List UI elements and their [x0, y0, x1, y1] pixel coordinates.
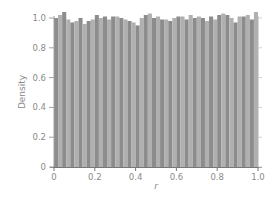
y-tick-label: 0 — [41, 162, 46, 172]
histogram-bar — [217, 15, 221, 167]
histogram-bar — [136, 25, 140, 167]
y-tick-label: 0.8 — [32, 43, 46, 53]
x-tick-label: 1.0 — [251, 172, 265, 182]
histogram-bar — [238, 17, 242, 167]
histogram-bar — [123, 19, 127, 167]
x-tick-label: 0 — [51, 172, 56, 182]
histogram-bar — [209, 17, 213, 167]
histogram-bar — [91, 19, 95, 167]
histogram-bar — [164, 19, 168, 167]
histogram-bar — [107, 19, 111, 167]
histogram-bar — [95, 15, 99, 167]
x-axis-ticks: 00.20.40.60.81.0 — [51, 167, 264, 182]
histogram-bar — [115, 17, 119, 167]
histogram-bars — [54, 12, 258, 167]
histogram-bar — [168, 21, 172, 167]
y-tick-label: 0.4 — [32, 102, 46, 112]
histogram-bar — [193, 18, 197, 167]
histogram-chart: 00.20.40.60.81.0 00.20.40.60.81.0 Densit… — [0, 0, 276, 201]
histogram-bar — [144, 15, 148, 167]
histogram-bar — [254, 12, 258, 167]
histogram-bar — [180, 17, 184, 167]
histogram-bar — [225, 15, 229, 167]
histogram-bar — [234, 22, 238, 167]
histogram-bar — [185, 19, 189, 167]
histogram-bar — [201, 18, 205, 167]
histogram-bar — [66, 19, 70, 167]
histogram-bar — [103, 17, 107, 167]
x-tick-label: 0.6 — [170, 172, 184, 182]
histogram-bar — [132, 22, 136, 167]
histogram-bar — [70, 22, 74, 167]
histogram-bar — [54, 18, 58, 167]
histogram-bar — [140, 18, 144, 167]
histogram-bar — [111, 17, 115, 167]
x-tick-label: 0.4 — [129, 172, 143, 182]
histogram-bar — [250, 19, 254, 167]
histogram-bar — [176, 17, 180, 167]
y-tick-label: 0.6 — [32, 73, 46, 83]
y-tick-label: 0.2 — [32, 132, 46, 142]
histogram-bar — [205, 21, 209, 167]
histogram-bar — [87, 21, 91, 167]
histogram-bar — [62, 12, 66, 167]
y-tick-label: 1.0 — [32, 13, 46, 23]
histogram-bar — [99, 18, 103, 167]
histogram-bar — [127, 21, 131, 167]
histogram-bar — [197, 17, 201, 167]
histogram-bar — [160, 19, 164, 167]
histogram-bar — [148, 14, 152, 167]
histogram-bar — [58, 15, 62, 167]
histogram-bar — [74, 21, 78, 167]
histogram-bar — [189, 15, 193, 167]
histogram-bar — [152, 18, 156, 167]
histogram-bar — [83, 24, 87, 167]
histogram-bar — [229, 18, 233, 167]
histogram-bar — [156, 17, 160, 167]
histogram-bar — [119, 18, 123, 167]
y-axis-label: Density — [17, 74, 27, 109]
histogram-bar — [213, 19, 217, 167]
histogram-bar — [78, 18, 82, 167]
x-tick-label: 0.2 — [88, 172, 102, 182]
x-axis-label: r — [154, 181, 159, 191]
histogram-bar — [221, 14, 225, 167]
histogram-bar — [172, 18, 176, 167]
histogram-bar — [242, 17, 246, 167]
x-tick-label: 0.8 — [210, 172, 224, 182]
histogram-bar — [246, 15, 250, 167]
